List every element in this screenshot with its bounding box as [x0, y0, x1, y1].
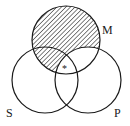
label-s: S [6, 106, 13, 120]
label-m: M [102, 23, 113, 37]
label-p: P [114, 106, 121, 120]
asterisk-marker: * [62, 63, 67, 74]
venn-diagram: M S P * [0, 0, 130, 126]
